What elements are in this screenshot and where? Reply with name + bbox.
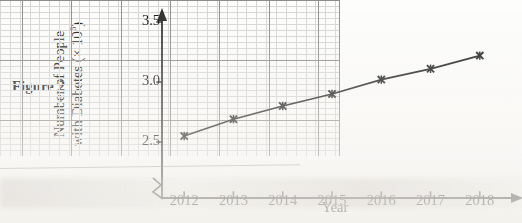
figure-screenshot: Figure 2 Number of People with Diabetes … <box>0 0 522 223</box>
x-axis-tick-label: 2013 <box>210 192 256 209</box>
x-axis-tick-label: 2012 <box>161 192 207 209</box>
x-axis-tick-label: 2017 <box>408 192 454 209</box>
x-axis-title: Year <box>290 199 380 216</box>
x-axis-tick-labels: 2012201320142015201620172018 <box>0 0 522 223</box>
x-axis-tick-label: 2018 <box>457 192 503 209</box>
